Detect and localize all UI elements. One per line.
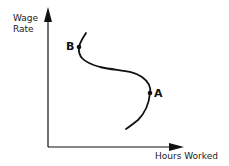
y-axis-label-line1: Wage bbox=[13, 13, 38, 24]
y-axis-label: Wage Rate bbox=[13, 13, 38, 35]
point-a-marker bbox=[148, 91, 153, 96]
y-axis-arrow-icon bbox=[44, 7, 52, 22]
point-a-label: A bbox=[154, 88, 163, 99]
x-axis-arrow-icon bbox=[169, 143, 184, 151]
point-b-marker bbox=[77, 45, 82, 50]
point-b-label: B bbox=[66, 41, 74, 52]
x-axis-label: Hours Worked bbox=[155, 151, 218, 161]
y-axis-label-line2: Rate bbox=[13, 24, 38, 35]
labor-supply-curve bbox=[79, 33, 150, 129]
